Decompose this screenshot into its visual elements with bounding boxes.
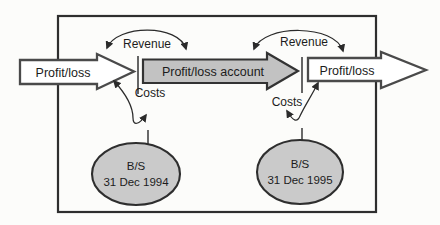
profit-loss-account-label: Profit/loss account bbox=[162, 65, 265, 79]
profit-loss-flow-diagram: Profit/loss Profit/loss account Profit/l… bbox=[0, 0, 440, 225]
costs-label-left: Costs bbox=[135, 86, 166, 100]
balance-sheet-1995-ellipse bbox=[257, 140, 343, 204]
left-profit-loss-label: Profit/loss bbox=[36, 66, 91, 80]
balance-sheet-1995-date: 31 Dec 1995 bbox=[267, 174, 332, 186]
balance-sheet-1995-title: B/S bbox=[291, 158, 310, 170]
balance-sheet-1994-title: B/S bbox=[127, 160, 146, 172]
right-profit-loss-label: Profit/loss bbox=[320, 64, 375, 78]
revenue-label-right: Revenue bbox=[280, 35, 328, 49]
costs-label-right: Costs bbox=[272, 95, 303, 109]
diagram-canvas: Profit/loss Profit/loss account Profit/l… bbox=[0, 0, 440, 225]
balance-sheet-1994-date: 31 Dec 1994 bbox=[103, 176, 169, 188]
balance-sheet-1994-ellipse bbox=[92, 143, 180, 205]
revenue-label-left: Revenue bbox=[123, 37, 171, 51]
